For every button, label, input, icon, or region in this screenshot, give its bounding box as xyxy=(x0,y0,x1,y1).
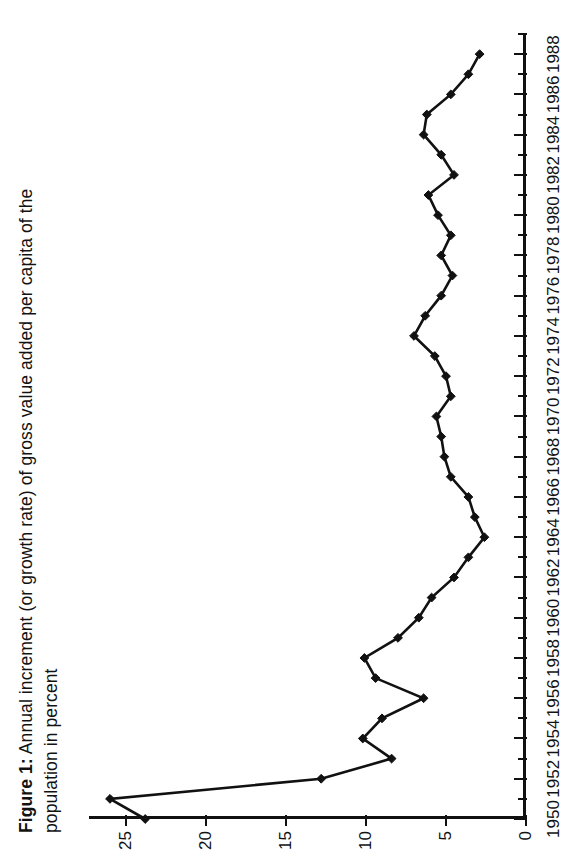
y-tick-label-25: 25 xyxy=(116,831,136,861)
data-point-1956 xyxy=(419,694,428,703)
x-tick-label-1970: 1970 xyxy=(544,398,564,436)
x-tick-label-1954: 1954 xyxy=(544,720,564,758)
data-series-growth-rate xyxy=(86,34,526,819)
y-tick-label-20: 20 xyxy=(196,831,216,861)
data-point-1965 xyxy=(470,513,479,522)
data-point-1969 xyxy=(437,432,446,441)
x-tick-label-1974: 1974 xyxy=(544,317,564,355)
x-tick-label-1968: 1968 xyxy=(544,438,564,476)
x-tick-label-1972: 1972 xyxy=(544,357,564,395)
figure-canvas: Figure 1: Annual increment (or growth ra… xyxy=(0,0,571,861)
y-tick-label-15: 15 xyxy=(276,831,296,861)
x-tick-label-1956: 1956 xyxy=(544,679,564,717)
series-polyline xyxy=(110,54,484,819)
x-tick-label-1962: 1962 xyxy=(544,559,564,597)
x-tick-label-1976: 1976 xyxy=(544,277,564,315)
figure-caption-text: Annual increment (or growth rate) of gro… xyxy=(16,189,61,833)
figure-caption: Figure 1: Annual increment (or growth ra… xyxy=(14,133,64,833)
series-markers xyxy=(106,50,489,824)
x-tick-label-1964: 1964 xyxy=(544,518,564,556)
x-tick-label-1950: 1950 xyxy=(544,800,564,838)
x-tick-label-1978: 1978 xyxy=(544,237,564,275)
y-tick-label-5: 5 xyxy=(436,831,456,861)
x-tick-label-1984: 1984 xyxy=(544,116,564,154)
x-tick-label-1980: 1980 xyxy=(544,196,564,234)
data-point-1952 xyxy=(317,774,326,783)
x-tick-label-1988: 1988 xyxy=(544,35,564,73)
x-tick-label-1986: 1986 xyxy=(544,75,564,113)
y-tick-label-10: 10 xyxy=(356,831,376,861)
figure-number: Figure 1: xyxy=(16,758,36,833)
y-tick-label-0: 0 xyxy=(516,831,536,861)
x-tick-label-1960: 1960 xyxy=(544,599,564,637)
data-point-1968 xyxy=(440,452,449,461)
x-tick-label-1982: 1982 xyxy=(544,156,564,194)
plot-area: 1950195219541956195819601962196419661968… xyxy=(86,34,526,819)
rotated-figure-wrapper: Figure 1: Annual increment (or growth ra… xyxy=(0,0,571,861)
x-tick-label-1958: 1958 xyxy=(544,639,564,677)
x-tick-label-1952: 1952 xyxy=(544,760,564,798)
x-tick-label-1966: 1966 xyxy=(544,478,564,516)
